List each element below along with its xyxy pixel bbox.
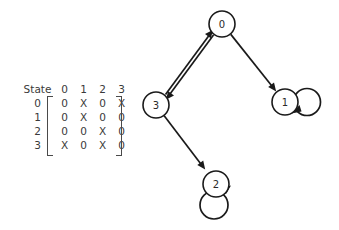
edge-0-to-1	[231, 34, 276, 91]
edge-line-3-2	[164, 116, 201, 164]
node-label-3: 3	[153, 100, 159, 111]
state-transition-graph: 0 1 2 3	[0, 0, 339, 230]
graph-node-0[interactable]: 0	[209, 11, 235, 37]
graph-node-2[interactable]: 2	[203, 171, 229, 197]
edge-3-to-2	[164, 116, 205, 170]
figure-canvas: State 0 1 2 3 0 0 X 0 X 1 0 X	[0, 0, 339, 230]
edge-3-to-0	[166, 30, 214, 95]
graph-node-3[interactable]: 3	[143, 92, 169, 118]
graph-node-1[interactable]: 1	[272, 89, 298, 115]
edge-0-to-3	[166, 35, 214, 100]
node-label-2: 2	[213, 179, 219, 190]
edge-line-0-1	[231, 34, 272, 85]
node-label-1: 1	[282, 97, 288, 108]
node-label-0: 0	[219, 19, 225, 30]
edge-line-0-3	[170, 35, 214, 94]
edge-line-3-0	[166, 36, 210, 95]
